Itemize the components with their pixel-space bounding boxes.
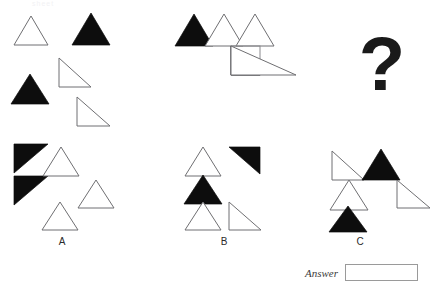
white-triangle-up	[43, 147, 79, 176]
option-a-label: A	[52, 236, 72, 247]
black-right-triangle	[229, 147, 260, 174]
option-b-label: B	[214, 236, 234, 247]
black-triangle-up	[362, 149, 400, 180]
option-a[interactable]	[10, 140, 145, 232]
white-triangle-up	[236, 14, 274, 46]
black-triangle-up	[11, 74, 49, 104]
option-c[interactable]	[302, 140, 432, 232]
black-right-triangle	[14, 144, 48, 173]
white-triangle-up	[330, 180, 368, 210]
answer-label: Answer	[305, 267, 338, 279]
second-figure-group	[165, 0, 325, 100]
black-triangle-up	[72, 13, 110, 45]
white-right-triangle	[231, 46, 296, 75]
answer-row: Answer	[305, 264, 418, 281]
first-figure-group	[0, 0, 150, 140]
white-triangle-up	[185, 202, 221, 230]
white-right-triangle	[229, 202, 261, 230]
option-c-label: C	[350, 236, 370, 247]
white-triangle-up	[42, 202, 78, 230]
white-right-triangle	[397, 180, 430, 208]
answer-input[interactable]	[345, 264, 418, 281]
option-b[interactable]	[172, 140, 292, 232]
white-right-triangle	[77, 97, 110, 126]
puzzle-page: sheet ? A	[0, 0, 437, 294]
question-mark-icon: ?	[352, 26, 412, 102]
white-right-triangle	[59, 58, 91, 87]
white-triangle-up	[205, 14, 243, 46]
black-triangle-up	[184, 175, 222, 204]
black-right-triangle	[14, 176, 48, 205]
white-triangle-up	[185, 147, 221, 176]
white-right-triangle	[332, 151, 364, 180]
white-triangle-up	[78, 180, 114, 208]
white-triangle-up	[14, 16, 48, 45]
